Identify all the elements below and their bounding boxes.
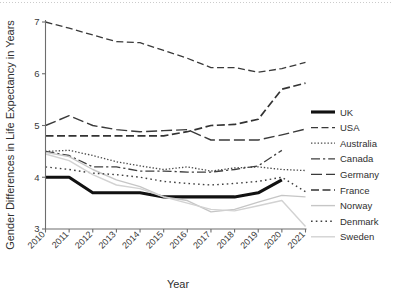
x-tick-label: 2010 (26, 229, 47, 250)
y-tick-label: 5 (34, 120, 39, 131)
x-tick-label: 2012 (73, 229, 94, 250)
chart-figure: 3456720102011201220132014201520162017201… (0, 0, 393, 296)
legend-entry-canada[interactable]: Canada (311, 153, 374, 164)
legend-label: Australia (340, 138, 378, 149)
legend-label: Denmark (340, 216, 379, 227)
x-tick-label: 2019 (238, 229, 259, 250)
legend-label: Canada (340, 153, 374, 164)
y-tick-label: 7 (34, 16, 39, 27)
plot-area (46, 22, 306, 226)
legend-layer: UKUSAAustraliaCanadaGermanyFranceNorwayD… (311, 107, 379, 243)
legend-label: France (340, 185, 370, 196)
x-axis-title: Year (167, 278, 190, 290)
x-tick-label: 2014 (120, 229, 141, 250)
y-tick-label: 6 (34, 68, 39, 79)
series-line-usa (46, 22, 306, 72)
legend-entry-norway[interactable]: Norway (311, 200, 372, 211)
legend-label: UK (340, 107, 354, 118)
series-line-uk (46, 177, 282, 197)
axis-layer: 3456720102011201220132014201520162017201… (26, 16, 307, 250)
legend-entry-usa[interactable]: USA (311, 122, 360, 133)
legend-label: Germany (340, 169, 379, 180)
legend-entry-uk[interactable]: UK (311, 107, 354, 118)
legend-entry-germany[interactable]: Germany (311, 169, 379, 180)
line-chart-canvas: 3456720102011201220132014201520162017201… (0, 0, 393, 296)
x-tick-label: 2015 (144, 229, 165, 250)
legend-entry-australia[interactable]: Australia (311, 138, 378, 149)
x-tick-label: 2020 (262, 229, 283, 250)
x-tick-label: 2017 (191, 229, 212, 250)
x-tick-label: 2016 (167, 229, 188, 250)
x-tick-label: 2021 (286, 229, 307, 250)
series-line-canada (46, 150, 282, 172)
series-line-france (46, 83, 306, 136)
y-tick-label: 4 (34, 172, 39, 183)
x-tick-label: 2013 (97, 229, 118, 250)
legend-label: USA (340, 122, 360, 133)
legend-entry-denmark[interactable]: Denmark (311, 216, 379, 227)
y-axis-title: Gender Differences in Life Expectancy in… (4, 20, 16, 250)
legend-entry-france[interactable]: France (311, 185, 370, 196)
legend-entry-sweden[interactable]: Sweden (311, 231, 374, 242)
x-tick-label: 2018 (215, 229, 236, 250)
legend-label: Sweden (340, 231, 374, 242)
x-tick-label: 2011 (50, 229, 71, 250)
series-layer (46, 22, 306, 226)
legend-label: Norway (340, 200, 372, 211)
